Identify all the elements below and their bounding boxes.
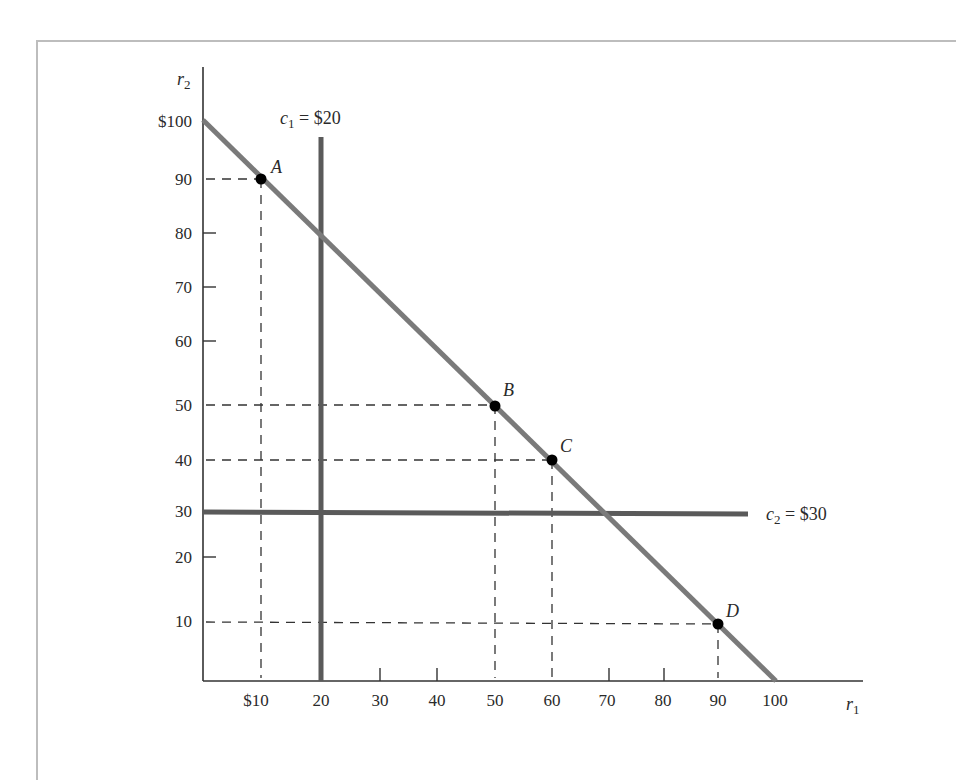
axes xyxy=(203,67,863,681)
svg-text:60: 60 xyxy=(175,332,192,351)
guide-lines xyxy=(206,179,718,678)
budget-line xyxy=(203,120,776,681)
y-tick-labels: $100 90 80 70 60 50 40 30 20 10 xyxy=(158,112,192,631)
point-D-label: D xyxy=(725,601,739,621)
svg-text:30: 30 xyxy=(372,691,389,710)
x-axis-label: r1 xyxy=(846,694,860,717)
c2-constraint-line xyxy=(203,512,748,514)
svg-text:80: 80 xyxy=(175,224,192,243)
y-axis-label: r2 xyxy=(177,69,191,92)
svg-text:90: 90 xyxy=(710,691,727,710)
svg-text:40: 40 xyxy=(429,691,446,710)
svg-text:20: 20 xyxy=(313,691,330,710)
x-tick-labels: $10 20 30 40 50 60 70 80 90 100 xyxy=(243,691,788,710)
svg-text:70: 70 xyxy=(599,691,616,710)
svg-text:100: 100 xyxy=(762,691,788,710)
point-D-marker xyxy=(713,619,724,630)
point-C-marker xyxy=(547,455,558,466)
svg-text:60: 60 xyxy=(544,691,561,710)
svg-text:40: 40 xyxy=(175,451,192,470)
svg-text:20: 20 xyxy=(175,548,192,567)
svg-text:50: 50 xyxy=(487,691,504,710)
svg-text:10: 10 xyxy=(175,612,192,631)
c1-annotation: c1 = $20 xyxy=(280,108,341,131)
c2-annotation: c2 = $30 xyxy=(766,504,827,527)
point-A-label: A xyxy=(270,157,283,177)
svg-text:$10: $10 xyxy=(243,691,269,710)
svg-text:$100: $100 xyxy=(158,112,192,131)
point-B-marker xyxy=(490,401,501,412)
guide-D-horizontal xyxy=(206,622,718,624)
y-ticks xyxy=(203,233,216,557)
svg-text:80: 80 xyxy=(655,691,672,710)
point-B-label: B xyxy=(503,380,514,400)
svg-text:70: 70 xyxy=(175,278,192,297)
svg-text:50: 50 xyxy=(175,396,192,415)
svg-text:90: 90 xyxy=(175,170,192,189)
svg-text:30: 30 xyxy=(175,502,192,521)
x-ticks xyxy=(380,668,664,681)
point-C-label: C xyxy=(560,436,573,456)
point-A-marker xyxy=(256,174,267,185)
